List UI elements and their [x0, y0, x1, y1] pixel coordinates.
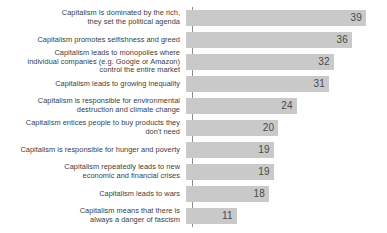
category-label: Capitalism leads to wars — [0, 190, 186, 199]
category-label: Capitalism repeatedly leads to new econo… — [0, 163, 186, 180]
bar-value-label: 18 — [254, 189, 266, 199]
category-label: Capitalism Is dominated by the rich, the… — [0, 9, 186, 26]
category-label: Capitalism means that there is always a … — [0, 207, 186, 224]
bar-track: 20 — [186, 117, 387, 139]
bar-track: 39 — [186, 7, 387, 29]
bar: 18 — [186, 186, 269, 202]
category-label: Capitalism entices people to buy product… — [0, 119, 186, 136]
bar-track: 19 — [186, 139, 387, 161]
chart-row: Capitalism leads to monopolies where ind… — [0, 51, 387, 73]
bar: 19 — [186, 142, 274, 158]
bar: 39 — [186, 10, 366, 26]
bar: 20 — [186, 120, 278, 136]
bar-track: 19 — [186, 161, 387, 183]
bar: 31 — [186, 76, 329, 92]
bar-value-label: 20 — [263, 123, 275, 133]
bar-value-label: 39 — [350, 13, 362, 23]
category-label: Capitalism promotes selfishness and gree… — [0, 36, 186, 45]
bar-track: 31 — [186, 73, 387, 95]
chart-row: Capitalism is responsible for environmen… — [0, 95, 387, 117]
bar-track: 32 — [186, 51, 387, 73]
chart-row: Capitalism entices people to buy product… — [0, 117, 387, 139]
category-label: Capitalism leads to monopolies where ind… — [0, 49, 186, 75]
chart-row: Capitalism means that there is always a … — [0, 205, 387, 227]
category-label: Capitalism leads to growing inequality — [0, 80, 186, 89]
chart-row: Capitalism is responsible for hunger and… — [0, 139, 387, 161]
chart-row: Capitalism repeatedly leads to new econo… — [0, 161, 387, 183]
bar-value-label: 32 — [318, 57, 330, 67]
category-label: Capitalism is responsible for environmen… — [0, 97, 186, 114]
chart-row: Capitalism leads to wars18 — [0, 183, 387, 205]
bar-track: 11 — [186, 205, 387, 227]
bar: 19 — [186, 164, 274, 180]
chart-row: Capitalism leads to growing inequality31 — [0, 73, 387, 95]
category-label: Capitalism is responsible for hunger and… — [0, 146, 186, 155]
bar-value-label: 11 — [222, 211, 233, 221]
bar-value-label: 31 — [314, 79, 326, 89]
bar-value-label: 24 — [281, 101, 293, 111]
bar: 32 — [186, 54, 334, 70]
bar: 36 — [186, 32, 352, 48]
bar: 11 — [186, 208, 237, 224]
bar-value-label: 36 — [337, 35, 349, 45]
bar-track: 24 — [186, 95, 387, 117]
chart-rows: Capitalism Is dominated by the rich, the… — [0, 7, 387, 227]
chart-row: Capitalism Is dominated by the rich, the… — [0, 7, 387, 29]
bar-track: 36 — [186, 29, 387, 51]
bar: 24 — [186, 98, 297, 114]
bar-value-label: 19 — [258, 145, 270, 155]
horizontal-bar-chart: Capitalism Is dominated by the rich, the… — [0, 0, 387, 233]
bar-value-label: 19 — [258, 167, 270, 177]
bar-track: 18 — [186, 183, 387, 205]
